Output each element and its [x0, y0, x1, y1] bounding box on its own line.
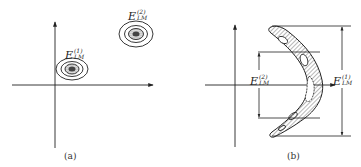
crescent-region: [269, 26, 323, 137]
panel-a: [12, 21, 153, 148]
label-e2-lm-a: E(2)LM: [128, 7, 147, 23]
figure: E(1)LM E(2)LM (a) E(2)LM E(1)LM (b): [0, 0, 361, 167]
cluster-2: [119, 21, 153, 47]
caption-b: (b): [287, 151, 300, 161]
label-e1-lm-b: E(1)LM: [333, 72, 352, 88]
caption-a: (a): [64, 151, 76, 161]
figure-drawing: [0, 0, 361, 167]
panel-b: [205, 25, 351, 147]
label-e2-lm-b: E(2)LM: [250, 72, 269, 88]
label-e1-lm-a: E(1)LM: [65, 46, 84, 62]
